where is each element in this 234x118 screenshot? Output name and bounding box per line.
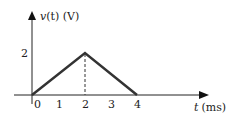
x-axis-label-unit: (ms) — [201, 101, 226, 114]
y-axis-label: v(t) (V) — [40, 10, 79, 23]
x-tick-3: 3 — [108, 98, 115, 111]
y-tick-2: 2 — [21, 47, 28, 60]
x-axis-label: t(ms) — [194, 101, 226, 114]
x-axis-arrow-icon — [199, 91, 209, 99]
x-tick-4: 4 — [134, 98, 141, 111]
x-axis-label-var: t — [194, 101, 199, 114]
x-tick-1: 1 — [56, 98, 63, 111]
x-tick-0: 0 — [34, 98, 41, 111]
x-tick-2: 2 — [82, 98, 89, 111]
y-axis-arrow-icon — [28, 11, 36, 20]
chart: 2 0 1 2 3 4 v(t) (V) t(ms) — [0, 0, 234, 118]
y-axis-label-rest: (t) (V) — [46, 10, 79, 23]
